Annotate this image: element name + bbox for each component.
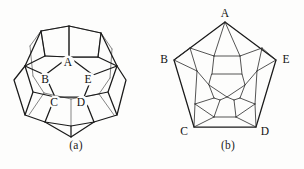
vertex-label-b-A: A xyxy=(221,7,230,19)
vertex-label-b-E: E xyxy=(282,53,289,65)
vertex-label-a-D: D xyxy=(77,96,85,108)
central-links-group xyxy=(209,85,245,100)
vertex-labels-group-a: A B C D E xyxy=(41,56,91,108)
vertex-label-b-C: C xyxy=(180,125,188,137)
figure-panel-b: A B C D E (b) xyxy=(152,0,304,169)
dodecahedron-schlegel-drawing: A B C D E xyxy=(152,0,304,145)
dodecahedron-perspective-drawing: A B C D E xyxy=(0,0,152,145)
vertex-labels-group-b: A B C D E xyxy=(160,7,289,137)
vertex-label-a-A: A xyxy=(64,56,73,68)
caption-panel-b: (b) xyxy=(152,139,304,151)
figure-plate: A B C D E (a) xyxy=(0,0,304,169)
inner-pentagon xyxy=(209,74,245,97)
visible-edges-group xyxy=(14,26,126,137)
middle-ring xyxy=(190,48,262,117)
vertex-label-b-B: B xyxy=(160,53,168,65)
vertex-label-b-D: D xyxy=(261,125,269,137)
vertex-label-a-C: C xyxy=(50,96,58,108)
inner-spokes-group xyxy=(195,56,257,117)
figure-panel-a: A B C D E (a) xyxy=(0,0,152,169)
vertex-label-a-B: B xyxy=(41,73,49,85)
vertex-label-a-E: E xyxy=(84,73,91,85)
caption-panel-a: (a) xyxy=(0,139,152,151)
outer-pentagon xyxy=(174,22,276,127)
